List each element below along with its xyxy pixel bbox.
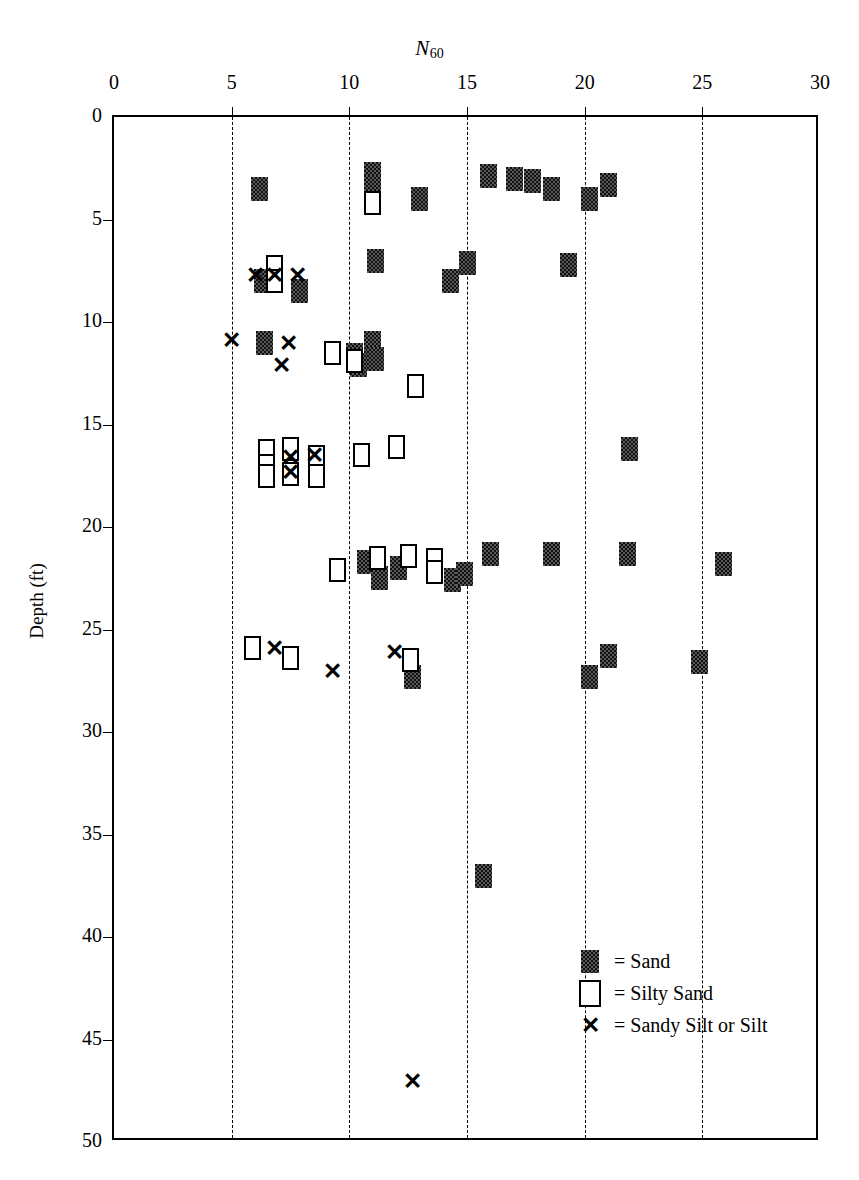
data-point-filled-square [251, 177, 268, 201]
y-axis-tick [103, 322, 114, 323]
sand-swatch-icon [577, 950, 603, 973]
gridline-vertical [232, 117, 233, 1138]
data-point-filled-square [581, 187, 598, 211]
data-point-open-square [426, 560, 443, 584]
y-axis-tick-label: 20 [54, 514, 102, 537]
data-point-filled-square [600, 644, 617, 668]
data-point-filled-square [411, 187, 428, 211]
x-axis-tick [702, 107, 703, 117]
y-axis-tick-label: 30 [54, 719, 102, 742]
data-point-filled-square [715, 552, 732, 576]
data-point-filled-square [543, 177, 560, 201]
gridline-vertical [349, 117, 350, 1138]
y-axis-tick-label: 40 [54, 924, 102, 947]
y-axis-tick [103, 425, 114, 426]
data-point-filled-square [367, 249, 384, 273]
x-axis-tick [585, 107, 586, 117]
data-point-open-square [258, 464, 275, 488]
y-axis-tick-label: 0 [54, 104, 102, 127]
x-axis-tick [467, 107, 468, 117]
data-point-filled-square [621, 437, 638, 461]
legend-label-sand: = Sand [614, 950, 670, 973]
data-point-open-square [407, 374, 424, 398]
y-axis-tick [103, 527, 114, 528]
data-point-filled-square [442, 269, 459, 293]
data-point-filled-square [543, 542, 560, 566]
data-point-filled-square [480, 164, 497, 188]
data-point-x-mark: ✕ [277, 332, 299, 354]
data-point-x-mark: ✕ [263, 637, 285, 659]
data-point-filled-square [456, 562, 473, 586]
data-point-x-mark: ✕ [270, 354, 292, 376]
data-point-open-square [400, 544, 417, 568]
y-axis-title: Depth (ft) [26, 531, 48, 671]
x-axis-tick-label: 5 [202, 71, 262, 94]
data-point-open-square [388, 435, 405, 459]
x-axis-tick-label: 10 [319, 71, 379, 94]
x-axis-tick [232, 107, 233, 117]
data-point-x-mark: ✕ [402, 1070, 424, 1092]
data-point-x-mark: ✕ [303, 444, 325, 466]
y-axis-tick [103, 630, 114, 631]
data-point-open-square [346, 349, 363, 373]
silty-sand-swatch-icon [577, 980, 603, 1007]
y-axis-tick [103, 937, 114, 938]
x-axis-title-main: N [415, 36, 429, 60]
y-axis-tick-label: 5 [54, 207, 102, 230]
data-point-filled-square [600, 173, 617, 197]
data-point-filled-square [482, 542, 499, 566]
data-point-open-square [324, 341, 341, 365]
sandy-silt-swatch-icon: ✕ [577, 1014, 603, 1036]
legend-label-sandy-silt: = Sandy Silt or Silt [614, 1014, 768, 1037]
y-axis-tick-label: 10 [54, 309, 102, 332]
x-axis-title: N60 [0, 36, 859, 62]
legend-label-silty-sand: = Silty Sand [614, 982, 713, 1005]
data-point-filled-square [367, 347, 384, 371]
data-point-x-mark: ✕ [280, 461, 302, 483]
x-axis-tick [349, 107, 350, 117]
data-point-open-square [244, 636, 261, 660]
data-point-x-mark: ✕ [221, 329, 243, 351]
y-axis-tick-label: 35 [54, 822, 102, 845]
y-axis-tick-label: 25 [54, 617, 102, 640]
data-point-x-mark: ✕ [322, 660, 344, 682]
x-axis-tick-label: 15 [437, 71, 497, 94]
data-point-filled-square [256, 331, 273, 355]
x-axis-tick-label: 20 [555, 71, 615, 94]
data-point-filled-square [560, 253, 577, 277]
data-point-filled-square [371, 566, 388, 590]
y-axis-tick [103, 1040, 114, 1041]
y-axis-tick [103, 732, 114, 733]
data-point-open-square [369, 546, 386, 570]
legend-item-sandy-silt: ✕ = Sandy Silt or Silt [577, 1010, 807, 1040]
data-point-filled-square [691, 650, 708, 674]
x-axis-tick-label: 0 [84, 71, 144, 94]
data-point-x-mark: ✕ [263, 264, 285, 286]
data-point-filled-square [459, 251, 476, 275]
data-point-filled-square [506, 167, 523, 191]
legend-item-sand: = Sand [577, 946, 807, 976]
legend-item-silty-sand: = Silty Sand [577, 978, 807, 1008]
data-point-open-square [364, 191, 381, 215]
data-point-filled-square [475, 864, 492, 888]
y-axis-tick-label: 50 [54, 1129, 102, 1152]
x-axis-tick-label: 30 [790, 71, 850, 94]
y-axis-tick [103, 835, 114, 836]
spt-depth-scatter-figure: N60 Depth (ft) 0510152025300510152025303… [0, 0, 859, 1180]
y-axis-tick [103, 220, 114, 221]
data-point-x-mark: ✕ [287, 264, 309, 286]
x-axis-title-subscript: 60 [430, 46, 444, 61]
data-point-filled-square [619, 542, 636, 566]
legend: = Sand = Silty Sand ✕ = Sandy Silt or Si… [577, 946, 807, 1042]
data-point-open-square [329, 558, 346, 582]
y-axis-tick-label: 45 [54, 1027, 102, 1050]
data-point-open-square [353, 443, 370, 467]
data-point-x-mark: ✕ [383, 641, 405, 663]
data-point-filled-square [581, 665, 598, 689]
x-axis-tick-label: 25 [672, 71, 732, 94]
y-axis-tick-label: 15 [54, 412, 102, 435]
data-point-filled-square [524, 169, 541, 193]
